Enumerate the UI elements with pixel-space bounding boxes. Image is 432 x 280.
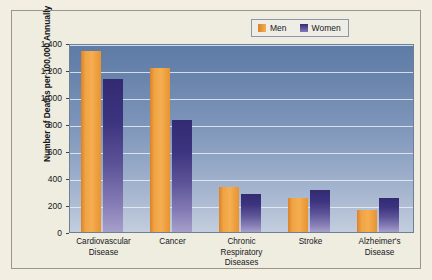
figure-root: Number of Deaths per 100,000 Annually 1,… <box>0 0 432 280</box>
bar-women <box>310 190 330 232</box>
bar-women <box>379 198 399 232</box>
bar-women <box>172 120 192 232</box>
chart-legend: MenWomen <box>251 19 349 37</box>
y-tick-label: 400 <box>28 174 62 184</box>
men-swatch <box>258 24 266 32</box>
bar-group <box>277 45 346 232</box>
legend-entry: Women <box>300 23 341 33</box>
y-tick-label: 1,200 <box>28 66 62 76</box>
y-tick-label: 600 <box>28 147 62 157</box>
y-tick-mark <box>66 233 69 234</box>
x-tick-label: Alzheimer's Disease <box>336 237 423 258</box>
bar-men <box>150 68 170 232</box>
y-tick-label: 800 <box>28 120 62 130</box>
bar-men <box>288 198 308 232</box>
figure-frame: Number of Deaths per 100,000 Annually 1,… <box>11 10 421 269</box>
bar-women <box>103 79 123 232</box>
y-tick-label: 1,000 <box>28 93 62 103</box>
plot-area <box>69 44 414 233</box>
bar-group <box>346 45 414 232</box>
bar-group <box>139 45 208 232</box>
y-tick-label: 1,400 <box>28 39 62 49</box>
legend-label: Women <box>312 23 341 33</box>
bar-men <box>219 187 239 232</box>
bar-men <box>357 210 377 232</box>
bar-group <box>70 45 139 232</box>
women-swatch <box>300 24 308 32</box>
bar-men <box>81 51 101 232</box>
bar-group <box>208 45 277 232</box>
legend-label: Men <box>270 23 287 33</box>
y-tick-label: 200 <box>28 201 62 211</box>
legend-entry: Men <box>258 23 287 33</box>
y-tick-label: 0 <box>28 228 62 238</box>
bar-women <box>241 194 261 232</box>
